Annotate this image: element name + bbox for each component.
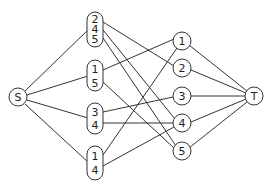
edge-S-L2	[27, 76, 88, 95]
edge-S-L3	[27, 100, 88, 118]
edge-S-L1	[25, 30, 88, 91]
left-node-L1: 2 4 5	[87, 12, 103, 47]
bipartite-flow-diagram: S 2 4 5 1 5 3 4 1 4 1 2 3 4 5	[0, 0, 271, 184]
right-node-3: 3	[173, 87, 191, 105]
right-node-label: 3	[179, 90, 186, 103]
left-node-label: 5	[92, 33, 99, 46]
edge-S-L4	[25, 104, 88, 162]
left-node-label: 3	[92, 106, 99, 119]
right-node-4: 4	[173, 114, 191, 132]
right-node-1: 1	[173, 32, 191, 50]
edge-5-T	[189, 102, 247, 148]
source-label: S	[15, 91, 22, 104]
edge-1-T	[189, 45, 247, 91]
left-node-label: 5	[92, 77, 99, 90]
edge-L4-4	[103, 127, 174, 166]
left-node-label: 4	[92, 164, 99, 177]
sink-label: T	[250, 90, 258, 103]
left-node-L3: 3 4	[87, 103, 103, 134]
right-node-label: 4	[179, 117, 186, 130]
edge-4-T	[191, 99, 246, 122]
left-node-L4: 1 4	[87, 146, 103, 180]
right-node-label: 5	[179, 145, 186, 158]
source-node: S	[9, 88, 27, 106]
left-node-label: 1	[92, 150, 99, 163]
right-node-label: 2	[179, 62, 186, 75]
left-node-label: 1	[92, 63, 99, 76]
edge-2-T	[191, 70, 246, 93]
edge-L4-1	[103, 48, 177, 155]
sink-node: T	[245, 87, 263, 105]
edges	[25, 22, 247, 166]
right-node-label: 1	[179, 35, 186, 48]
right-node-2: 2	[173, 59, 191, 77]
left-node-label: 4	[92, 119, 99, 132]
right-node-5: 5	[173, 142, 191, 160]
left-node-L2: 1 5	[87, 60, 103, 91]
